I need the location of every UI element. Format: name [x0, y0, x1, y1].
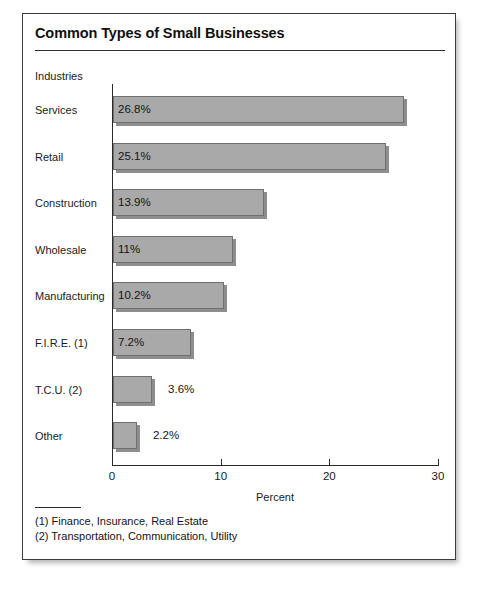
bar-value-label: 25.1%: [118, 150, 151, 162]
footnote-rule: [35, 507, 81, 508]
figure-card: Common Types of Small Businesses Industr…: [22, 13, 456, 560]
x-tick-label: 20: [323, 470, 336, 482]
x-tick-label: 0: [109, 470, 115, 482]
bar-value-label: 11%: [118, 243, 140, 255]
bar[interactable]: [113, 96, 404, 123]
y-axis-line: [112, 84, 113, 466]
footnotes: (1) Finance, Insurance, Real Estate(2) T…: [35, 514, 237, 544]
x-tick-label: 30: [432, 470, 445, 482]
x-tick-mark: [221, 459, 222, 466]
bar-value-label: 7.2%: [118, 336, 144, 348]
bar-value-label: 2.2%: [153, 429, 179, 441]
bar-value-label: 13.9%: [118, 196, 151, 208]
x-tick-mark: [438, 459, 439, 466]
category-label: F.I.R.E. (1): [35, 337, 88, 349]
category-label: Construction: [35, 197, 97, 209]
x-tick-mark: [329, 459, 330, 466]
bar-value-label: 10.2%: [118, 289, 151, 301]
category-label: Wholesale: [35, 244, 86, 256]
bar-value-label: 26.8%: [118, 103, 151, 115]
x-axis-title: Percent: [112, 491, 438, 503]
bar[interactable]: [113, 143, 386, 170]
plot-area: Services26.8%Retail25.1%Construction13.9…: [23, 14, 457, 561]
x-tick-label: 10: [214, 470, 227, 482]
category-label: Manufacturing: [35, 290, 105, 302]
bar-value-label: 3.6%: [168, 383, 194, 395]
x-axis-line: [112, 465, 438, 466]
bar[interactable]: [113, 376, 152, 403]
category-label: T.C.U. (2): [35, 384, 82, 396]
bar[interactable]: [113, 422, 137, 449]
category-label: Other: [35, 430, 63, 442]
category-label: Retail: [35, 151, 63, 163]
x-tick-mark: [112, 459, 113, 466]
footnote-line: (2) Transportation, Communication, Utili…: [35, 529, 237, 544]
category-label: Services: [35, 104, 77, 116]
footnote-line: (1) Finance, Insurance, Real Estate: [35, 514, 237, 529]
